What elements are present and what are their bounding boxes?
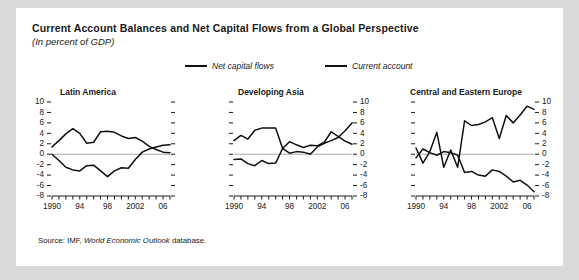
x-tick-label: 98 xyxy=(285,202,295,211)
y-tick-label: -6 xyxy=(542,181,550,190)
y-tick-label: 8 xyxy=(39,108,44,117)
figure-inner: Current Account Balances and Net Capital… xyxy=(16,8,563,266)
y-tick-label: -4 xyxy=(542,170,550,179)
y-tick-label: 10 xyxy=(35,97,45,106)
figure-subtitle: (In percent of GDP) xyxy=(32,36,114,47)
y-tick-label: -6 xyxy=(360,181,368,190)
panel-title-central-eastern-europe: Central and Eastern Europe xyxy=(410,87,522,97)
y-tick-label: 0 xyxy=(39,149,44,158)
y-tick-label: -2 xyxy=(37,160,45,169)
y-tick-label: 10 xyxy=(542,97,552,106)
y-tick-label: 6 xyxy=(360,118,365,127)
x-tick-label: 2002 xyxy=(308,202,327,211)
y-tick-label: 0 xyxy=(542,149,547,158)
y-tick-label: 6 xyxy=(542,118,547,127)
series-line-net-capital-flows xyxy=(416,106,534,167)
x-tick-label: 94 xyxy=(439,202,449,211)
chart-panel-developing-asia: 1086420-2-4-6-819909498200206 Developing… xyxy=(206,82,380,222)
x-tick-label: 94 xyxy=(257,202,267,211)
source-suffix: database. xyxy=(170,236,206,245)
chart-panel-central-eastern-europe: 1086420-2-4-6-819909498200206 Central an… xyxy=(388,82,562,222)
y-tick-label: -2 xyxy=(542,160,550,169)
series-line-current-account xyxy=(234,123,352,166)
y-tick-label: 4 xyxy=(542,129,547,138)
y-tick-label: 10 xyxy=(360,97,370,106)
x-tick-label: 98 xyxy=(103,202,113,211)
y-tick-label: 4 xyxy=(39,129,44,138)
y-tick-label: 0 xyxy=(360,149,365,158)
x-tick-label: 2002 xyxy=(126,202,145,211)
figure-card: Current Account Balances and Net Capital… xyxy=(16,8,563,266)
x-tick-label: 94 xyxy=(75,202,85,211)
series-line-current-account xyxy=(52,145,170,177)
series-line-current-account xyxy=(416,149,534,192)
chart-svg-developing-asia: 1086420-2-4-6-819909498200206 xyxy=(206,82,380,222)
y-tick-label: 6 xyxy=(39,118,44,127)
legend-line-swatch-current-account xyxy=(325,65,347,67)
panel-title-latin-america: Latin America xyxy=(60,87,116,97)
y-tick-label: -4 xyxy=(360,170,368,179)
chart-svg-central-eastern-europe: 1086420-2-4-6-819909498200206 xyxy=(388,82,562,222)
series-line-net-capital-flows xyxy=(52,129,170,153)
y-tick-label: -8 xyxy=(37,191,45,200)
chart-panel-latin-america: 1086420-2-4-6-819909498200206 Latin Amer… xyxy=(24,82,198,222)
chart-legend: Net capital flows Current account xyxy=(16,61,563,77)
legend-entry-net-capital-flows: Net capital flows xyxy=(185,61,274,71)
x-tick-label: 06 xyxy=(341,202,351,211)
y-tick-label: 2 xyxy=(360,139,365,148)
series-line-net-capital-flows xyxy=(234,128,352,148)
y-tick-label: 2 xyxy=(39,139,44,148)
x-tick-label: 2002 xyxy=(490,202,509,211)
y-tick-label: -6 xyxy=(37,181,45,190)
panel-title-developing-asia: Developing Asia xyxy=(238,87,304,97)
y-tick-label: 4 xyxy=(360,129,365,138)
legend-entry-current-account: Current account xyxy=(325,61,412,71)
y-tick-label: 8 xyxy=(542,108,547,117)
source-prefix: Source: IMF, xyxy=(38,236,84,245)
legend-line-swatch-net-capital-flows xyxy=(185,65,207,67)
legend-label-net-capital-flows: Net capital flows xyxy=(212,61,274,71)
x-tick-label: 1990 xyxy=(225,202,244,211)
source-note: Source: IMF, World Economic Outlook data… xyxy=(38,236,206,245)
x-tick-label: 06 xyxy=(159,202,169,211)
x-tick-label: 1990 xyxy=(407,202,426,211)
x-tick-label: 1990 xyxy=(43,202,62,211)
y-tick-label: -8 xyxy=(360,191,368,200)
y-tick-label: -2 xyxy=(360,160,368,169)
chart-panels: 1086420-2-4-6-819909498200206 Latin Amer… xyxy=(16,82,563,222)
y-tick-label: -8 xyxy=(542,191,550,200)
y-tick-label: 8 xyxy=(360,108,365,117)
legend-label-current-account: Current account xyxy=(352,61,412,71)
source-publication: World Economic Outlook xyxy=(84,236,170,245)
y-tick-label: 2 xyxy=(542,139,547,148)
x-tick-label: 06 xyxy=(523,202,533,211)
chart-svg-latin-america: 1086420-2-4-6-819909498200206 xyxy=(24,82,198,222)
figure-title: Current Account Balances and Net Capital… xyxy=(32,22,419,34)
y-tick-label: -4 xyxy=(37,170,45,179)
x-tick-label: 98 xyxy=(467,202,477,211)
